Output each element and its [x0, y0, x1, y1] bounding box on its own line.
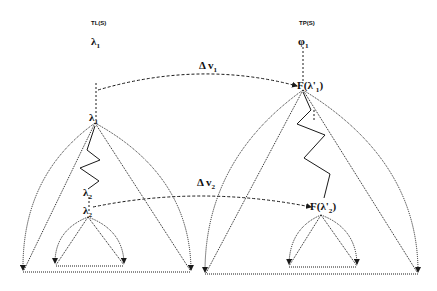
mapping-1-subscript: 1	[214, 66, 218, 74]
right-node2-symbol: F(λ	[310, 200, 326, 212]
right-node2-close: )	[332, 200, 336, 212]
left-node1-subscript: 1	[94, 118, 98, 126]
left-zigzag	[80, 126, 100, 189]
right-zigzag	[297, 92, 330, 198]
left-small-line-right	[88, 217, 124, 265]
mapping-arrow-2	[93, 196, 311, 207]
right-node1-close: )	[319, 79, 323, 91]
diagram-lines	[0, 0, 437, 291]
right-node1-label: F(λ'1)	[297, 80, 323, 94]
mapping-arrow-1	[98, 74, 297, 90]
left-tree-title: TL(S)	[91, 20, 106, 26]
right-small-arc-right	[321, 215, 357, 264]
left-node1-label: λ1	[89, 112, 98, 126]
left-inner-line-right	[95, 123, 190, 270]
right-root-symbol: φ	[298, 35, 305, 47]
left-node2-label: λ2	[83, 187, 92, 201]
right-root-subscript: 1	[305, 42, 309, 50]
left-node2b-subscript: 2	[88, 211, 92, 219]
mapping-2-subscript: 2	[212, 183, 216, 191]
right-tree-title: TP(S)	[299, 20, 315, 26]
left-node2b-label: λ2	[83, 205, 92, 219]
left-root-label: λ1	[91, 36, 100, 50]
left-node2-subscript: 2	[88, 193, 92, 201]
left-small-line-left	[56, 217, 88, 265]
left-root-subscript: 1	[96, 42, 100, 50]
right-inner-line-right	[303, 90, 417, 272]
right-node2-label: F(λ'2)	[310, 201, 336, 215]
right-outer-arc-left	[205, 90, 303, 272]
tree-mapping-diagram: TL(S) TP(S) λ1 λ1 λ2 λ2 φ1 F(λ'1) F(λ'2)…	[0, 0, 437, 291]
right-inner-line-left	[206, 90, 303, 273]
right-root-label: φ1	[298, 36, 308, 50]
mapping-1-label: Δ v1	[199, 60, 217, 74]
mapping-2-symbol: Δ v	[197, 176, 212, 188]
right-node1-symbol: F(λ	[297, 79, 313, 91]
mapping-2-label: Δ v2	[197, 177, 215, 191]
mapping-1-symbol: Δ v	[199, 59, 214, 71]
